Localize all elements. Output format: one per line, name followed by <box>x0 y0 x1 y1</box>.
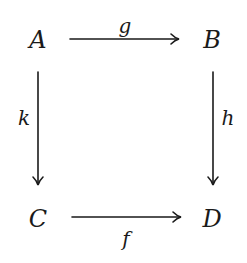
node-b: B <box>203 28 221 52</box>
edge-label-k: k <box>18 108 30 128</box>
node-d: D <box>202 207 221 231</box>
edge-label-g: g <box>119 16 132 36</box>
edge-label-h: h <box>222 108 235 128</box>
arrow-k <box>33 72 43 185</box>
commutative-diagram: A B C D g k h f <box>0 0 247 263</box>
arrow-f <box>72 212 181 222</box>
node-a: A <box>29 28 46 52</box>
arrow-h <box>208 72 218 185</box>
node-c: C <box>29 207 47 231</box>
edge-label-f: f <box>122 229 129 249</box>
